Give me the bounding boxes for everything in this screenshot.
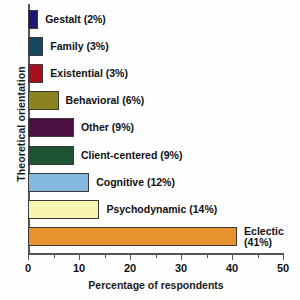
plot-area: Gestalt (2%)Family (3%)Existential (3%)B… <box>28 4 283 252</box>
bar-eclectic <box>28 227 237 246</box>
bar-row: Other (9%) <box>28 118 134 138</box>
x-tick-major <box>181 253 182 260</box>
x-tick-label: 20 <box>124 262 136 274</box>
bar-row: Family (3%) <box>28 36 109 56</box>
x-tick-label: 0 <box>25 262 31 274</box>
bar-gestalt <box>28 10 38 29</box>
x-axis-title: Percentage of respondents <box>28 279 284 291</box>
bar-label: Existential (3%) <box>50 68 128 79</box>
bar-label: Family (3%) <box>50 41 108 52</box>
bar-behavioral <box>28 91 59 110</box>
x-tick-label: 50 <box>277 262 289 274</box>
bar-cognitive <box>28 173 89 192</box>
bar-label: Gestalt (2%) <box>45 14 106 25</box>
bar-row: Psychodynamic (14%) <box>28 199 217 219</box>
bar-label: Client-centered (9%) <box>81 150 183 161</box>
bar-psychodynamic <box>28 200 99 219</box>
bar-row: Eclectic(41%) <box>28 227 300 247</box>
y-axis-title: Theoretical orientation <box>15 29 27 219</box>
x-tick-minor <box>54 253 55 258</box>
bar-row: Client-centered (9%) <box>28 145 182 165</box>
x-tick-label: 10 <box>73 262 85 274</box>
bar-label: Psychodynamic (14%) <box>106 204 217 215</box>
x-tick-major <box>79 253 80 260</box>
bar-existential <box>28 64 43 83</box>
bar-row: Existential (3%) <box>28 63 128 83</box>
bar-label: Other (9%) <box>81 122 134 133</box>
bar-row: Gestalt (2%) <box>28 9 106 29</box>
x-tick-label: 40 <box>226 262 238 274</box>
x-tick-minor <box>156 253 157 258</box>
bar-other <box>28 118 74 137</box>
bar-client-centered <box>28 146 74 165</box>
x-tick-minor <box>105 253 106 258</box>
x-tick-major <box>28 253 29 260</box>
x-tick-major <box>283 253 284 260</box>
bar-label: Cognitive (12%) <box>96 177 175 188</box>
x-tick-label: 30 <box>175 262 187 274</box>
bar-row: Cognitive (12%) <box>28 172 175 192</box>
bar-label: Eclectic(41%) <box>244 226 300 248</box>
bar-row: Behavioral (6%) <box>28 91 144 111</box>
x-tick-major <box>232 253 233 260</box>
x-tick-minor <box>207 253 208 258</box>
bar-label: Behavioral (6%) <box>66 95 145 106</box>
bar-family <box>28 37 43 56</box>
x-tick-minor <box>258 253 259 258</box>
bar-chart: Theoretical orientation Gestalt (2%)Fami… <box>0 0 300 300</box>
x-tick-major <box>130 253 131 260</box>
